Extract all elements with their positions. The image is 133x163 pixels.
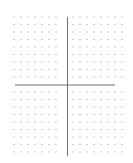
grid-dot: [73, 24, 74, 25]
grid-dot: [73, 62, 74, 63]
grid-dot: [115, 122, 116, 123]
grid-dot: [14, 47, 15, 48]
grid-dot: [56, 32, 57, 33]
grid-dot: [42, 137, 43, 138]
grid-dot: [101, 54, 102, 55]
grid-dot: [115, 32, 116, 33]
grid-dot: [115, 137, 116, 138]
grid-dot: [49, 32, 50, 33]
grid-dot: [21, 152, 22, 153]
grid-dot: [21, 99, 22, 100]
grid-dot: [35, 77, 36, 78]
grid-dot: [35, 114, 36, 115]
grid-dot: [28, 144, 29, 145]
grid-dot: [94, 137, 95, 138]
grid-dot: [115, 144, 116, 145]
grid-dot: [28, 92, 29, 93]
grid-dot: [14, 129, 15, 130]
grid-dot: [108, 54, 109, 55]
grid-dot: [42, 114, 43, 115]
grid-dot: [122, 122, 123, 123]
grid-dot: [21, 69, 22, 70]
grid-dot: [35, 92, 36, 93]
grid-dot: [87, 69, 88, 70]
grid-dot: [14, 39, 15, 40]
grid-dot: [21, 77, 22, 78]
grid-dot: [122, 54, 123, 55]
grid-dot: [49, 24, 50, 25]
grid-dot: [42, 99, 43, 100]
grid-dot: [49, 107, 50, 108]
grid-dot: [21, 122, 22, 123]
grid-dot: [28, 129, 29, 130]
grid-dot: [101, 17, 102, 18]
grid-dot: [87, 114, 88, 115]
grid-dot: [14, 54, 15, 55]
grid-dot: [122, 47, 123, 48]
grid-dot: [80, 92, 81, 93]
grid-dot: [122, 32, 123, 33]
grid-dot: [49, 69, 50, 70]
grid-dot: [94, 32, 95, 33]
grid-dot: [56, 39, 57, 40]
grid-dot: [94, 62, 95, 63]
grid-dot: [87, 92, 88, 93]
grid-dot: [80, 99, 81, 100]
grid-dot: [101, 152, 102, 153]
grid-dot: [108, 99, 109, 100]
grid-dot: [14, 137, 15, 138]
grid-dot: [108, 152, 109, 153]
grid-dot: [73, 129, 74, 130]
grid-dot: [56, 114, 57, 115]
grid-dot: [101, 144, 102, 145]
grid-dot: [73, 137, 74, 138]
grid-dot: [122, 39, 123, 40]
grid-dot: [115, 24, 116, 25]
grid-dot: [73, 47, 74, 48]
grid-dot: [115, 17, 116, 18]
grid-dot: [21, 144, 22, 145]
grid-dot: [115, 107, 116, 108]
grid-dot: [35, 69, 36, 70]
grid-dot: [108, 32, 109, 33]
grid-dot: [101, 114, 102, 115]
grid-dot: [101, 92, 102, 93]
grid-dot: [80, 69, 81, 70]
grid-dot: [28, 54, 29, 55]
grid-dot: [49, 62, 50, 63]
grid-dot: [122, 62, 123, 63]
grid-dot: [21, 54, 22, 55]
grid-dot: [49, 129, 50, 130]
grid-dot: [94, 107, 95, 108]
grid-dot: [87, 122, 88, 123]
grid-dot: [73, 32, 74, 33]
grid-dot: [21, 114, 22, 115]
grid-dot: [101, 39, 102, 40]
grid-dot: [87, 54, 88, 55]
grid-dot: [35, 54, 36, 55]
grid-dot: [80, 54, 81, 55]
grid-dot: [94, 47, 95, 48]
dot-grid-diagram: [0, 0, 133, 163]
grid-dot: [49, 114, 50, 115]
grid-dot: [21, 92, 22, 93]
grid-dot: [108, 92, 109, 93]
grid-dot: [14, 107, 15, 108]
grid-dot: [80, 62, 81, 63]
grid-dot: [35, 62, 36, 63]
grid-dot: [28, 17, 29, 18]
grid-dot: [122, 92, 123, 93]
grid-dot: [28, 32, 29, 33]
grid-dot: [80, 77, 81, 78]
grid-dot: [56, 47, 57, 48]
grid-dot: [35, 122, 36, 123]
grid-dot: [73, 54, 74, 55]
grid-dot: [73, 122, 74, 123]
grid-dot: [28, 107, 29, 108]
grid-dot: [28, 47, 29, 48]
grid-dot: [115, 99, 116, 100]
grid-dot: [49, 122, 50, 123]
grid-dot: [49, 152, 50, 153]
grid-dot: [94, 92, 95, 93]
grid-dot: [42, 107, 43, 108]
